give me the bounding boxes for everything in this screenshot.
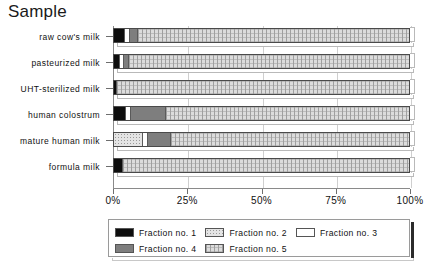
bar-bottom-face [117,69,414,73]
stacked-bar[interactable] [113,54,410,69]
bar-bottom-face [117,95,414,99]
bar-segment[interactable] [122,159,409,172]
bar-segment[interactable] [170,133,409,146]
bar-side-face [410,27,415,42]
y-axis-tick [106,114,113,115]
y-axis-tick [106,88,113,89]
bar-row: raw cow's milk [113,28,410,55]
legend-row-bottom: Fraction no. 4Fraction no. 5 [115,241,296,256]
plot-area: raw cow's milkpasteurized milkUHT-steril… [113,26,410,189]
bar-side-face [410,157,415,172]
bar-side-face [410,105,415,120]
x-axis-label: 50% [251,195,272,206]
bar-row: pasteurized milk [113,54,410,81]
bar-segment[interactable] [114,29,124,42]
legend-swatch [115,244,134,253]
y-axis-label: UHT-sterilized milk [21,84,100,94]
legend-swatch [115,228,134,237]
y-axis-label: mature human milk [20,136,100,146]
bar-segment[interactable] [137,29,409,42]
bar-segment[interactable] [114,133,142,146]
y-axis-label: pasteurized milk [31,58,100,68]
bar-segment[interactable] [165,107,409,120]
bar-segment[interactable] [147,133,170,146]
stacked-bar[interactable] [113,106,410,121]
legend-side-shadow [411,222,414,260]
bar-segment[interactable] [129,29,138,42]
legend-label: Fraction no. 5 [229,244,286,254]
legend-swatch [205,228,224,237]
bar-side-face [410,131,415,146]
stacked-bar[interactable] [113,28,410,43]
chart-legend: Fraction no. 1Fraction no. 2Fraction no.… [108,219,410,257]
x-axis-label: 25% [177,195,198,206]
x-axis-tick [336,189,337,194]
x-axis-tick [113,189,114,194]
y-axis-label: formula milk [49,162,100,172]
legend-item[interactable]: Fraction no. 5 [205,244,286,254]
chart-root: Sample raw cow's milkpasteurized milkUHT… [0,0,438,280]
legend-item[interactable]: Fraction no. 1 [115,228,196,238]
bar-row: UHT-sterilized milk [113,80,410,107]
bar-bottom-face [117,147,414,151]
legend-label: Fraction no. 3 [320,228,377,238]
bar-side-face [410,53,415,68]
bar-row: formula milk [113,158,410,185]
y-axis-label: raw cow's milk [39,32,100,42]
y-axis-tick [106,62,113,63]
y-axis-tick [106,166,113,167]
legend-swatch [205,244,224,253]
x-axis-tick [187,189,188,194]
bar-segment[interactable] [130,107,165,120]
legend-label: Fraction no. 2 [229,228,286,238]
x-axis-label: 100% [397,195,424,206]
x-axis-label: 75% [325,195,346,206]
chart-title: Sample [8,2,67,22]
legend-item[interactable]: Fraction no. 3 [296,228,377,238]
bar-row: human colostrum [113,106,410,133]
legend-bottom-shadow [112,258,414,261]
legend-item[interactable]: Fraction no. 4 [115,244,196,254]
bar-segment[interactable] [114,107,125,120]
stacked-bar[interactable] [113,158,410,173]
bar-row: mature human milk [113,132,410,159]
bar-bottom-face [117,121,414,125]
legend-label: Fraction no. 4 [139,244,196,254]
legend-swatch [296,228,315,237]
legend-item[interactable]: Fraction no. 2 [205,228,286,238]
y-axis-label: human colostrum [28,110,100,120]
stacked-bar[interactable] [113,80,410,95]
legend-row-top: Fraction no. 1Fraction no. 2Fraction no.… [115,225,386,240]
bar-side-face [410,79,415,94]
legend-label: Fraction no. 1 [139,228,196,238]
bar-segment[interactable] [114,159,122,172]
bar-bottom-face [117,43,414,47]
bar-segment[interactable] [116,81,409,94]
stacked-bar[interactable] [113,132,410,147]
x-axis-tick [262,189,263,194]
y-axis-tick [106,140,113,141]
x-axis: 0%25%50%75%100% [113,189,410,211]
x-axis-label: 0% [105,195,120,206]
y-axis-tick [106,36,113,37]
bar-bottom-face [117,173,414,177]
bar-segment[interactable] [128,55,409,68]
x-axis-tick [410,189,411,194]
